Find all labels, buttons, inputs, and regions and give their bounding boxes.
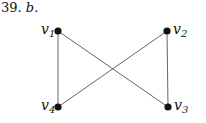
vertex-label-v4: v4 [41,98,55,117]
vertex-v4 [54,103,61,110]
vertex-v2 [163,27,170,34]
vertex-v3 [164,103,171,110]
vertex-label-v2: v2 [173,22,187,41]
vertex-label-v1: v1 [41,22,55,41]
edge-v2-v3 [167,31,168,107]
vertex-v1 [54,27,61,34]
vertex-label-v3: v3 [174,98,188,117]
